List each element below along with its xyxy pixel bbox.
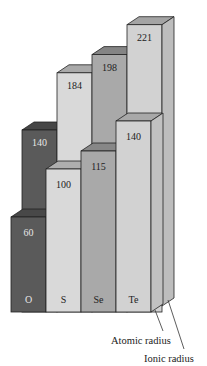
atomic-radius-leader-line [155,310,163,331]
category-label-Se: Se [94,294,105,305]
atomic-value-label-O: 140 [32,137,47,148]
legend-ionic-radius: Ionic radius [144,353,194,364]
ionic-bar-Se [81,151,116,312]
ionic-value-label-Se: 115 [91,161,106,172]
ionic-bar-side-Te [151,113,163,312]
ionic-value-label-S: 100 [56,179,71,190]
category-label-S: S [61,294,67,305]
radius-bar-chart: 14018419822160100115140 OSSeTe Atomic ra… [0,0,207,366]
ionic-bar-Te [116,121,151,312]
atomic-value-label-S: 184 [67,80,82,91]
atomic-bar-side-Te [162,17,174,306]
category-label-Te: Te [129,294,139,305]
atomic-value-label-Se: 198 [102,62,117,73]
ionic-bar-S [46,169,81,312]
ionic-value-label-O: 60 [24,227,34,238]
ionic-value-label-Te: 140 [126,131,141,142]
category-label-O: O [25,294,32,305]
atomic-value-label-Te: 221 [137,32,152,43]
legend-atomic-radius: Atomic radius [111,335,171,346]
